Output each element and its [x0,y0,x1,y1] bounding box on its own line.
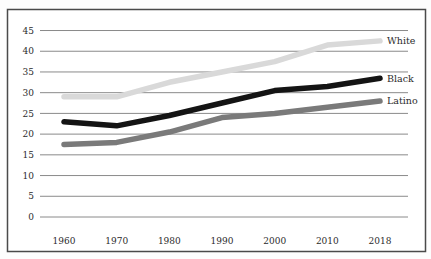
y-tick-label: 35 [23,67,35,77]
legend-label-black: Black [387,73,414,84]
line-chart: 4540353025201510501960197019801990200020… [0,0,431,259]
y-tick-label: 10 [23,171,35,181]
legend-label-latino: Latino [387,95,418,106]
x-tick-label: 1970 [105,236,128,246]
y-tick-label: 15 [23,150,35,160]
x-tick-label: 1960 [53,236,76,246]
y-tick-label: 20 [23,129,35,139]
x-tick-label: 2010 [316,236,339,246]
y-tick-label: 40 [23,46,35,56]
y-tick-label: 0 [28,212,34,222]
y-tick-label: 30 [23,88,35,98]
legend-label-white: White [387,35,416,46]
x-tick-label: 1990 [211,236,234,246]
x-tick-label: 1980 [158,236,181,246]
x-tick-label: 2018 [369,236,392,246]
y-tick-label: 45 [23,26,35,36]
y-tick-label: 25 [23,109,35,119]
x-tick-label: 2000 [263,236,286,246]
chart-frame [8,10,426,252]
screenshot-root: 4540353025201510501960197019801990200020… [0,0,431,259]
y-tick-label: 5 [28,191,34,201]
